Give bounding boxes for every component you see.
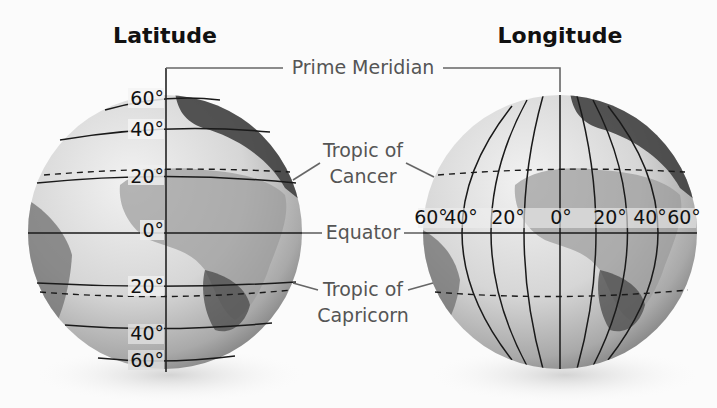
tropic-of-capricorn-leader-left <box>293 283 318 290</box>
lat-label-20s: 20° <box>130 275 164 297</box>
lon-label-0: 0° <box>550 206 572 228</box>
tropic-of-capricorn-label-line1: Tropic of <box>322 278 404 300</box>
longitude-title: Longitude <box>498 23 623 48</box>
lat-label-20n: 20° <box>130 165 164 187</box>
latitude-title: Latitude <box>113 23 217 48</box>
tropic-of-cancer-label-line1: Tropic of <box>322 139 404 161</box>
tropic-of-capricorn-leader-right <box>408 283 433 290</box>
tropic-of-cancer-leader-right <box>406 163 434 177</box>
latitude-longitude-diagram: 60° 40° 20° 0° 20° 40° 60° <box>0 0 717 408</box>
lon-label-20e: 20° <box>593 206 627 228</box>
lat-label-equator: 0° <box>142 219 164 241</box>
lon-label-60e: 60° <box>667 206 701 228</box>
lon-label-20w: 20° <box>491 206 525 228</box>
tropic-of-cancer-leader-left <box>293 163 320 180</box>
lon-label-40w: 40° <box>444 206 478 228</box>
lon-label-40e: 40° <box>633 206 667 228</box>
lat-label-40s: 40° <box>130 322 164 344</box>
lat-label-60n: 60° <box>130 87 164 109</box>
lat-label-40n: 40° <box>130 118 164 140</box>
prime-meridian-leader-right <box>443 68 560 92</box>
lat-label-60s: 60° <box>130 349 164 371</box>
tropic-of-capricorn-label-line2: Capricorn <box>317 304 409 326</box>
longitude-degree-labels: 60° 40° 20° 0° 20° 40° 60° <box>414 206 701 228</box>
latitude-globe <box>28 68 304 372</box>
lon-label-60w: 60° <box>414 206 448 228</box>
tropic-of-cancer-label-line2: Cancer <box>330 165 397 187</box>
prime-meridian-label: Prime Meridian <box>292 56 435 78</box>
equator-label: Equator <box>326 221 401 243</box>
